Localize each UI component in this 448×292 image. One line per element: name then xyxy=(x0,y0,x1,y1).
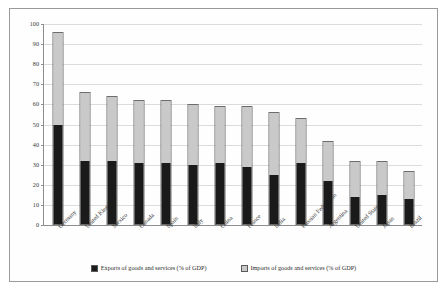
bar-segment-exports[interactable] xyxy=(107,161,116,224)
chart-frame: 0102030405060708090100 GermanyUnited Kin… xyxy=(9,8,438,282)
stacked-bar[interactable] xyxy=(377,161,388,225)
legend-item-exports: Exports of goods and services (% of GDP) xyxy=(91,264,207,272)
bar-slot: Spain xyxy=(152,24,179,225)
bar-segment-exports[interactable] xyxy=(53,125,62,224)
stacked-bar[interactable] xyxy=(160,100,171,225)
stacked-bar[interactable] xyxy=(52,32,63,225)
bar-segment-imports[interactable] xyxy=(297,119,306,162)
stacked-bar[interactable] xyxy=(350,161,361,225)
y-tick-label: 10 xyxy=(33,202,39,208)
stacked-bar[interactable] xyxy=(296,118,307,225)
bar-segment-imports[interactable] xyxy=(80,93,89,160)
imports-swatch-icon xyxy=(241,265,248,272)
bar-segment-imports[interactable] xyxy=(405,172,414,199)
exports-swatch-icon xyxy=(91,265,98,272)
bar-segment-imports[interactable] xyxy=(161,101,170,162)
bar-slot: Mexico xyxy=(98,24,125,225)
bar-segment-imports[interactable] xyxy=(215,107,224,162)
bar-segment-exports[interactable] xyxy=(188,165,197,224)
stacked-bar[interactable] xyxy=(404,171,415,225)
chart-legend: Exports of goods and services (% of GDP)… xyxy=(10,264,437,272)
stacked-bar[interactable] xyxy=(323,141,334,225)
y-tick-label: 0 xyxy=(36,222,39,228)
legend-item-imports: Imports of goods and services (% of GDP) xyxy=(241,264,357,272)
bar-series-layer: GermanyUnited KingdomMexicoCanadaSpainIt… xyxy=(44,24,422,225)
legend-label-exports: Exports of goods and services (% of GDP) xyxy=(101,264,207,272)
bar-slot: United States xyxy=(342,24,369,225)
bar-segment-exports[interactable] xyxy=(243,167,252,224)
y-tick-label: 90 xyxy=(33,41,39,47)
bar-slot: Brazil xyxy=(396,24,423,225)
bar-slot: United Kingdom xyxy=(71,24,98,225)
bar-segment-exports[interactable] xyxy=(324,181,333,224)
bar-segment-exports[interactable] xyxy=(215,163,224,224)
stacked-bar[interactable] xyxy=(79,92,90,225)
y-tick-label: 30 xyxy=(33,162,39,168)
chart-screenshot: 0102030405060708090100 GermanyUnited Kin… xyxy=(0,0,448,292)
legend-label-imports: Imports of goods and services (% of GDP) xyxy=(251,264,357,272)
y-tick-label: 60 xyxy=(33,101,39,107)
stacked-bar[interactable] xyxy=(214,106,225,225)
bar-slot: Argentina xyxy=(315,24,342,225)
bar-segment-imports[interactable] xyxy=(53,33,62,125)
y-tick-label: 40 xyxy=(33,141,39,147)
bar-slot: Italy xyxy=(179,24,206,225)
y-tick-label: 100 xyxy=(30,21,39,27)
bar-segment-exports[interactable] xyxy=(270,175,279,224)
bar-slot: France xyxy=(234,24,261,225)
bar-slot: India xyxy=(261,24,288,225)
x-axis-line xyxy=(43,225,422,226)
bar-slot: Japan xyxy=(369,24,396,225)
y-tick-label: 50 xyxy=(33,121,39,127)
stacked-bar[interactable] xyxy=(106,96,117,225)
bar-segment-imports[interactable] xyxy=(243,107,252,166)
y-tick-label: 80 xyxy=(33,61,39,67)
bar-slot: China xyxy=(206,24,233,225)
plot-area: 0102030405060708090100 GermanyUnited Kin… xyxy=(43,24,422,226)
bar-slot: Russian Federation xyxy=(288,24,315,225)
bar-segment-imports[interactable] xyxy=(134,101,143,162)
bar-segment-imports[interactable] xyxy=(351,162,360,197)
stacked-bar[interactable] xyxy=(269,112,280,225)
stacked-bar[interactable] xyxy=(242,106,253,225)
bar-segment-exports[interactable] xyxy=(80,161,89,224)
bar-segment-imports[interactable] xyxy=(107,97,116,160)
bar-segment-imports[interactable] xyxy=(324,142,333,181)
bar-segment-imports[interactable] xyxy=(378,162,387,195)
y-tick-label: 20 xyxy=(33,182,39,188)
bar-segment-imports[interactable] xyxy=(188,105,197,164)
stacked-bar[interactable] xyxy=(187,104,198,225)
bar-segment-exports[interactable] xyxy=(161,163,170,224)
bar-segment-imports[interactable] xyxy=(270,113,279,174)
bar-slot: Canada xyxy=(125,24,152,225)
bar-segment-exports[interactable] xyxy=(297,163,306,224)
bar-slot: Germany xyxy=(44,24,71,225)
stacked-bar[interactable] xyxy=(133,100,144,225)
bar-segment-exports[interactable] xyxy=(134,163,143,224)
y-tick-label: 70 xyxy=(33,81,39,87)
